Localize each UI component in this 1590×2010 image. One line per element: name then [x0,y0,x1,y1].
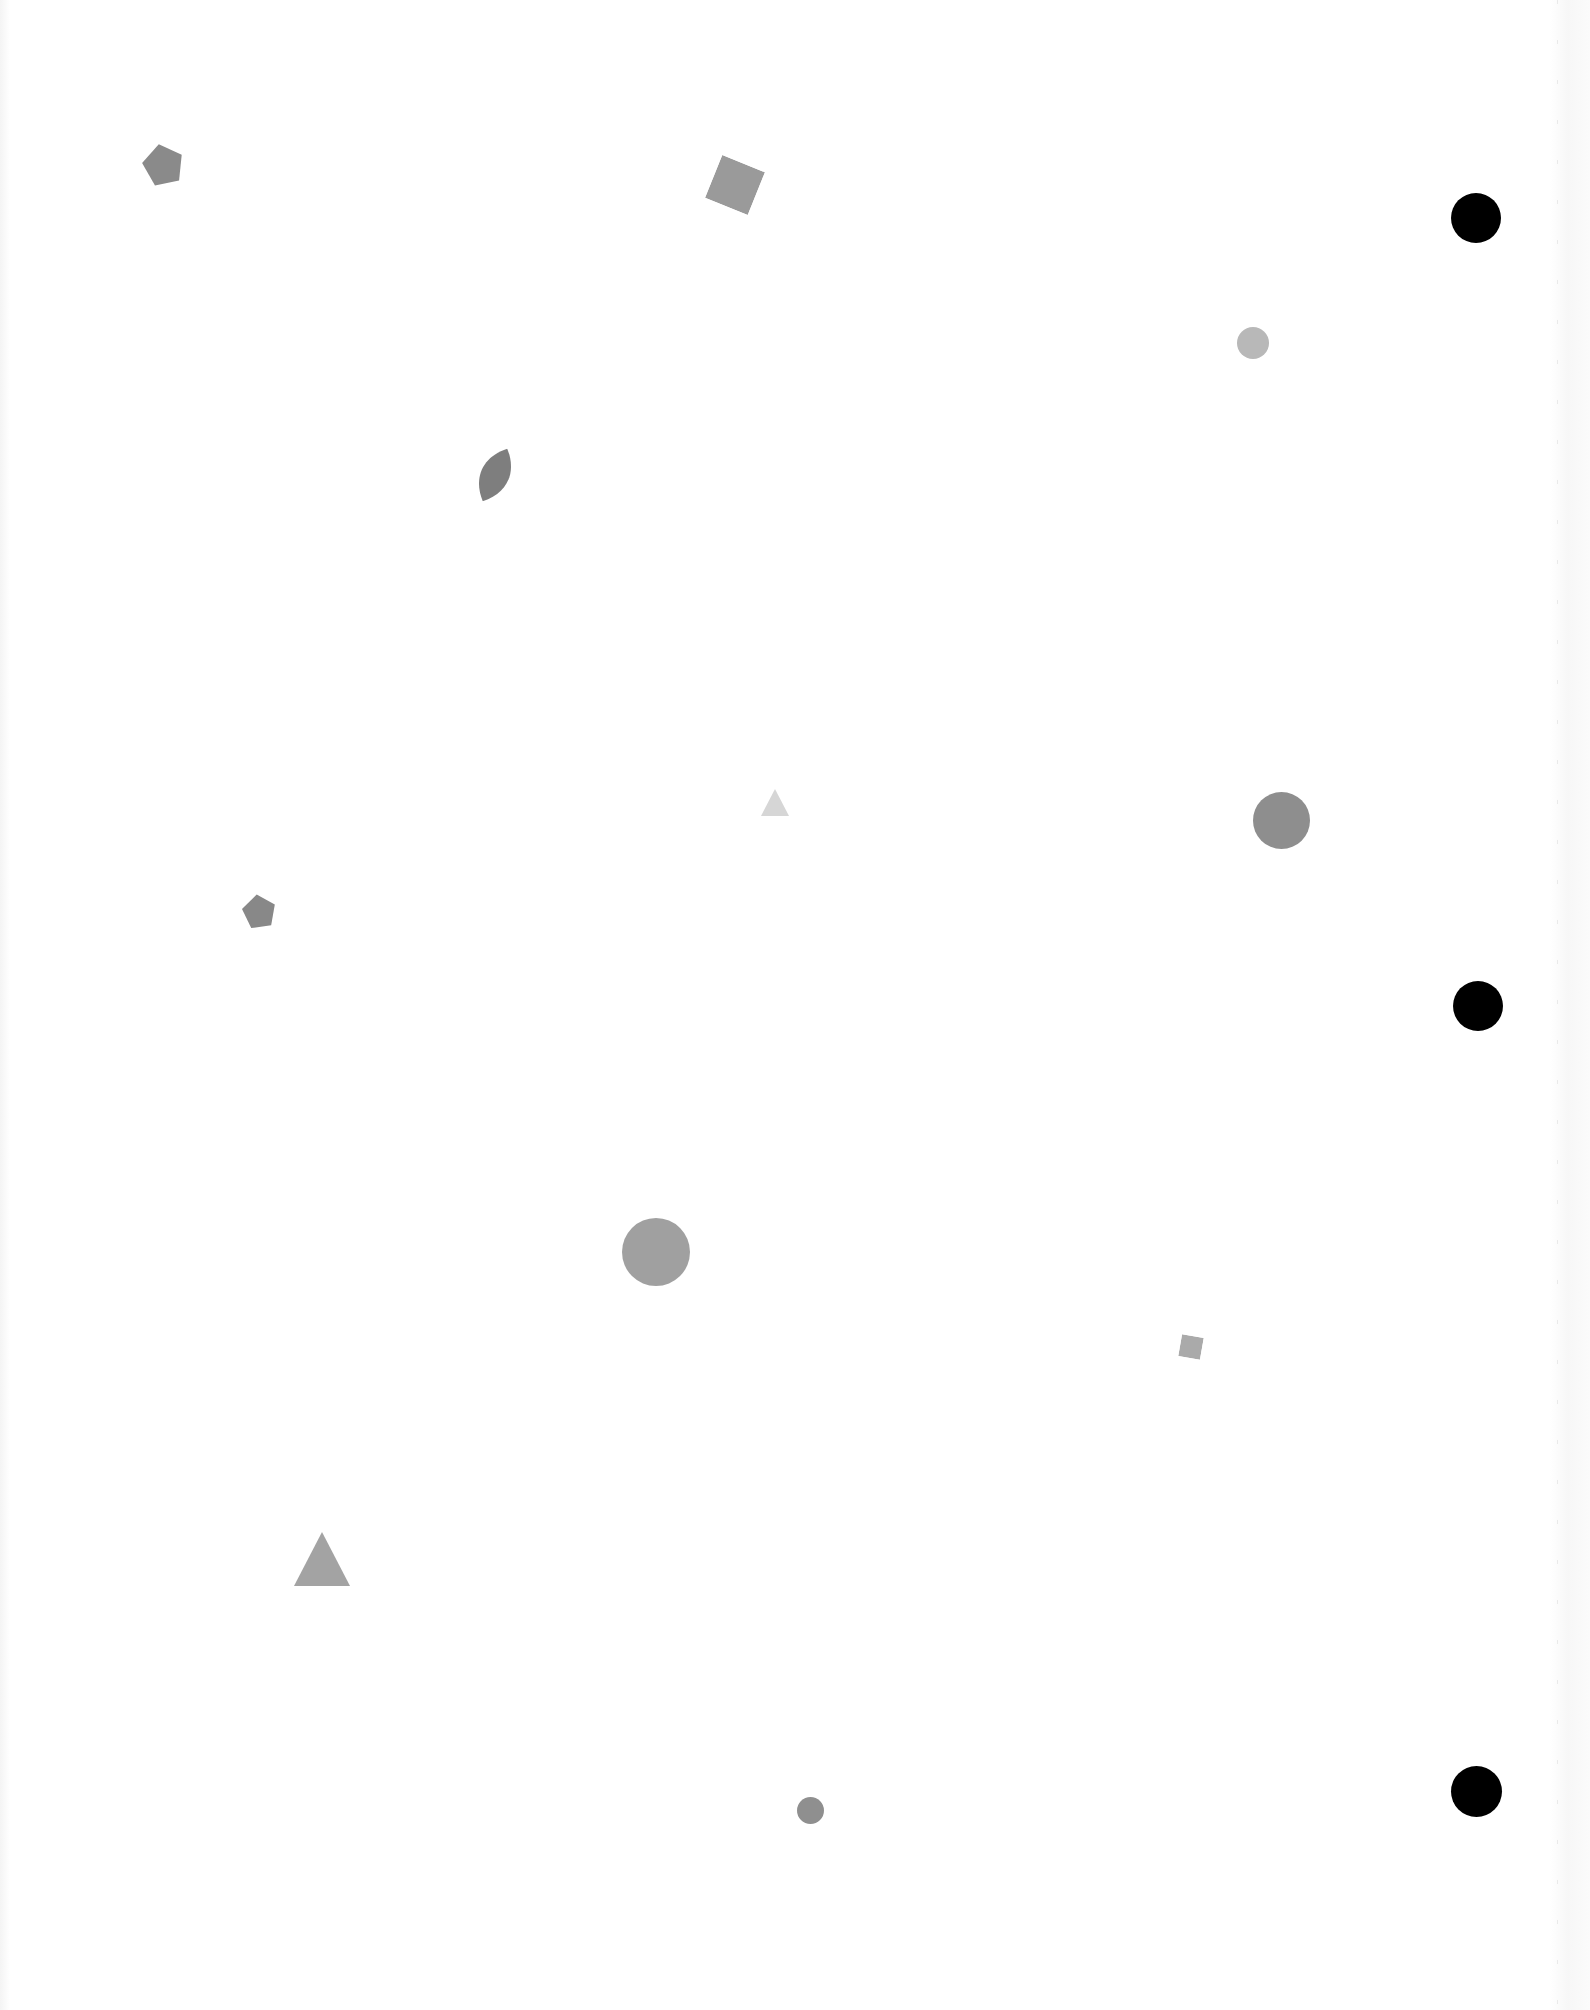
circle-shape-icon [1237,327,1269,359]
pentagon-shape-icon [239,891,280,932]
square-shape-icon [1178,1334,1203,1359]
square-shape-icon [705,155,765,215]
pentagon-shape-icon [137,138,189,190]
punch-hole-icon [1451,1766,1502,1817]
circle-shape-icon [797,1797,824,1824]
scan-edge-right [1550,0,1590,2010]
scan-edge-left [0,0,10,2010]
leaf-shape-icon [464,440,527,510]
triangle-shape-icon [294,1532,350,1586]
circle-shape-icon [1253,792,1310,849]
circle-shape-icon [622,1218,690,1286]
triangle-shape-icon [761,789,789,816]
punch-hole-icon [1451,193,1501,243]
scanned-page [0,0,1590,2010]
punch-hole-icon [1453,981,1503,1031]
scan-edge-dashed-line [1557,0,1558,2010]
